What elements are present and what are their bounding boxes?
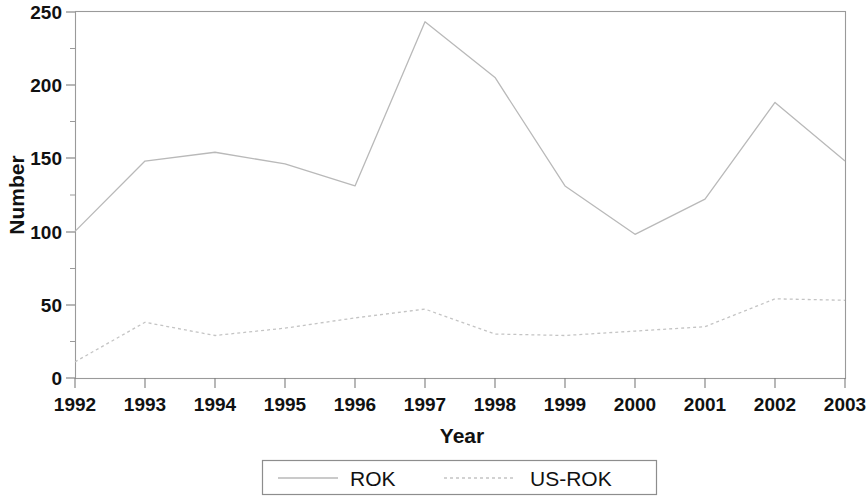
y-tick-label: 150: [30, 148, 62, 169]
x-tick-label: 1998: [474, 394, 516, 415]
x-axis-title: Year: [440, 424, 484, 447]
legend-label-us-rok: US-ROK: [530, 467, 612, 490]
y-axis-title: Number: [5, 155, 28, 234]
x-tick-label: 2003: [824, 394, 866, 415]
y-tick-label: 250: [30, 2, 62, 23]
y-axis-tick-labels: 250 200 150 100 50 0: [30, 2, 62, 389]
y-tick-label: 200: [30, 75, 62, 96]
y-tick-label: 100: [30, 222, 62, 243]
legend-label-rok: ROK: [350, 467, 396, 490]
x-axis-tick-labels: 1992 1993 1994 1995 1996 1997 1998 1999 …: [54, 394, 866, 415]
series-line-us-rok: [75, 299, 845, 362]
line-chart-figure: 250 200 150 100 50 0 Number 1992 1993 19…: [0, 0, 867, 500]
x-tick-label: 2000: [614, 394, 656, 415]
x-tick-label: 1999: [544, 394, 586, 415]
x-tick-label: 2001: [684, 394, 727, 415]
chart-legend: ROK US-ROK: [263, 461, 657, 495]
y-tick-label: 50: [41, 295, 62, 316]
x-tick-label: 1992: [54, 394, 96, 415]
x-tick-label: 1996: [334, 394, 376, 415]
x-tick-label: 1993: [124, 394, 166, 415]
x-tick-label: 2002: [754, 394, 796, 415]
y-tick-label: 0: [51, 368, 62, 389]
x-tick-label: 1997: [404, 394, 446, 415]
x-axis-ticks: [75, 378, 845, 388]
x-tick-label: 1995: [264, 394, 307, 415]
x-tick-label: 1994: [194, 394, 237, 415]
series-line-rok: [75, 22, 845, 235]
y-axis-ticks: [66, 12, 75, 378]
plot-frame: [76, 12, 846, 379]
